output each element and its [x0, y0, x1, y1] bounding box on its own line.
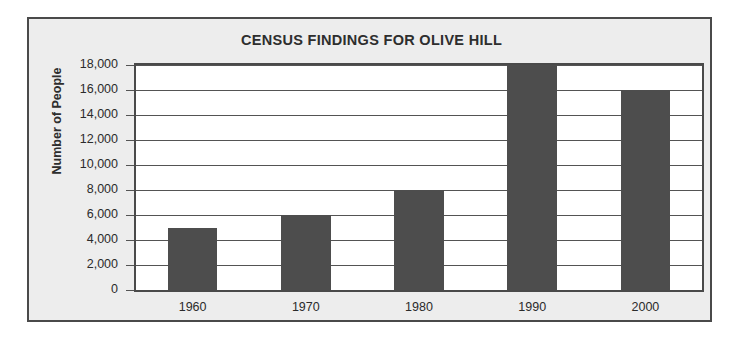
bar — [281, 215, 331, 290]
y-axis-tick-mark — [126, 115, 134, 116]
y-axis-tick-mark — [126, 240, 134, 241]
plot-area — [134, 63, 704, 292]
y-axis-tick-label: 18,000 — [38, 57, 118, 71]
x-axis-tick-label: 1990 — [476, 300, 589, 314]
y-axis-tick-label: 10,000 — [38, 157, 118, 171]
bar — [168, 228, 218, 291]
bar — [621, 90, 671, 290]
y-axis-tick-mark — [126, 165, 134, 166]
y-axis-tick-mark — [126, 140, 134, 141]
y-axis-tick-mark — [126, 90, 134, 91]
x-axis-tick-label: 2000 — [589, 300, 702, 314]
y-axis-tick-mark — [126, 290, 134, 291]
y-axis-tick-label: 14,000 — [38, 107, 118, 121]
bar-series — [136, 65, 702, 290]
x-axis-tick-label: 1960 — [136, 300, 249, 314]
y-axis-tick-mark — [126, 190, 134, 191]
y-axis-tick-label: 8,000 — [38, 182, 118, 196]
bar — [507, 65, 557, 290]
bar — [394, 190, 444, 290]
y-axis-tick-label: 6,000 — [38, 207, 118, 221]
y-axis-tick-label: 16,000 — [38, 82, 118, 96]
y-axis-tick-mark — [126, 65, 134, 66]
y-axis-tick-label: 12,000 — [38, 132, 118, 146]
y-axis-tick-mark — [126, 265, 134, 266]
y-axis-tick-mark — [126, 215, 134, 216]
chart-title: CENSUS FINDINGS FOR OLIVE HILL — [29, 32, 714, 48]
chart-frame: CENSUS FINDINGS FOR OLIVE HILL Number of… — [27, 17, 712, 322]
x-axis-tick-label: 1970 — [249, 300, 362, 314]
y-axis-tick-label: 2,000 — [38, 257, 118, 271]
x-axis-tick-label: 1980 — [362, 300, 475, 314]
y-axis-tick-label: 0 — [38, 282, 118, 296]
chart-figure: CENSUS FINDINGS FOR OLIVE HILL Number of… — [0, 0, 737, 338]
y-axis-tick-label: 4,000 — [38, 232, 118, 246]
